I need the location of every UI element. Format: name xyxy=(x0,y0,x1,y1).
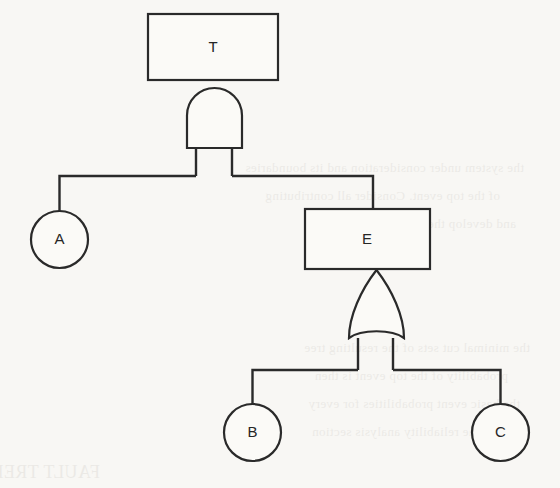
basic-event-node-b[interactable]: B xyxy=(224,404,281,461)
basic-event-node-a[interactable]: A xyxy=(31,211,88,268)
connector-upper-bus-to-e xyxy=(232,176,373,209)
basic-event-label-c: C xyxy=(495,423,506,440)
connector-lower-bus-to-b xyxy=(253,370,359,404)
or-gate[interactable] xyxy=(349,270,404,338)
or-gate-body[interactable] xyxy=(349,270,404,338)
fault-tree-diagram-page: the system under consideration and its b… xyxy=(0,0,560,488)
and-gate[interactable] xyxy=(187,88,242,148)
and-gate-body[interactable] xyxy=(187,88,242,148)
fault-tree-canvas: T E A B C xyxy=(0,0,560,488)
top-event-node-t[interactable]: T xyxy=(148,14,278,80)
intermediate-event-label: E xyxy=(362,230,372,247)
top-event-label: T xyxy=(208,38,217,55)
connector-upper-bus-to-a xyxy=(60,176,197,211)
connector-lower-bus-to-c xyxy=(393,370,501,404)
basic-event-node-c[interactable]: C xyxy=(472,404,529,461)
basic-event-label-b: B xyxy=(247,423,257,440)
connector-group xyxy=(60,146,501,404)
basic-event-label-a: A xyxy=(54,230,64,247)
intermediate-event-node-e[interactable]: E xyxy=(305,209,430,269)
